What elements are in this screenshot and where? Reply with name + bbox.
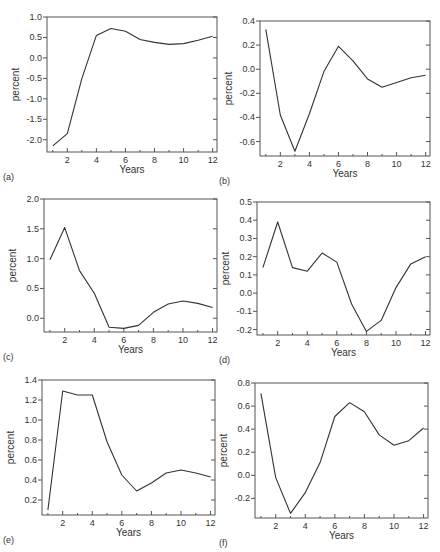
y-tick-label: 0.8 <box>237 378 250 388</box>
y-tick-label: 2.0 <box>26 194 39 204</box>
y-tick-label: -0.6 <box>239 137 255 147</box>
x-tick-label: 4 <box>90 518 95 528</box>
x-axis-label: Years <box>329 530 354 541</box>
y-tick-label: 0.1 <box>239 270 252 280</box>
plot-frame <box>257 202 430 335</box>
panel-label: (c) <box>3 352 14 362</box>
y-tick-label: 0.3 <box>239 233 252 243</box>
x-tick-label: 2 <box>273 521 278 531</box>
y-tick-label: 0.4 <box>237 424 250 434</box>
x-axis-label: Years <box>331 347 356 358</box>
y-tick-label: 0.2 <box>237 447 250 457</box>
x-tick-label: 10 <box>176 518 186 528</box>
x-tick-label: 10 <box>178 335 188 345</box>
x-tick-label: 8 <box>365 159 370 169</box>
x-tick-label: 8 <box>151 335 156 345</box>
y-axis-label: percent <box>7 249 18 283</box>
y-tick-label: 0.4 <box>24 475 37 485</box>
y-tick-label: 0.2 <box>239 252 252 262</box>
y-tick-label: 0.5 <box>239 197 252 207</box>
x-tick-label: 10 <box>389 521 399 531</box>
y-tick-label: 0.0 <box>26 313 39 323</box>
y-tick-label: 0.4 <box>239 215 252 225</box>
panel-label: (b) <box>219 176 230 186</box>
y-tick-label: -0.2 <box>239 88 255 98</box>
y-tick-label: -1.5 <box>26 114 42 124</box>
figure-six-panel-line-charts: 24681012-2.0-1.5-1.0-0.50.00.51.0Yearspe… <box>0 0 440 552</box>
y-tick-label: 0.4 <box>242 16 255 26</box>
chart-panel-e: 246810120.20.40.60.81.01.21.4Yearspercen… <box>3 375 216 545</box>
y-tick-label: 1.0 <box>26 254 39 264</box>
y-tick-label: 1.0 <box>24 415 37 425</box>
panel-label: (f) <box>219 538 228 548</box>
y-tick-label: 1.5 <box>26 224 39 234</box>
y-tick-label: 0.6 <box>24 455 37 465</box>
y-tick-label: -0.5 <box>26 73 42 83</box>
x-tick-label: 4 <box>94 155 99 165</box>
chart-panel-c: 246810120.00.51.01.52.0Yearspercent(c) <box>3 194 218 362</box>
y-tick-label: 0.6 <box>237 401 250 411</box>
y-axis-label: percent <box>5 431 16 465</box>
x-tick-label: 12 <box>208 335 218 345</box>
y-axis-label: percent <box>218 434 229 468</box>
x-tick-label: 12 <box>208 155 218 165</box>
x-tick-label: 2 <box>60 518 65 528</box>
data-series-line <box>50 228 213 329</box>
data-series-line <box>266 29 426 151</box>
y-tick-label: 1.4 <box>24 375 37 385</box>
y-tick-label: -1.0 <box>26 94 42 104</box>
chart-panel-d: 24681012-0.2-0.10.00.10.20.30.40.5Yearsp… <box>219 197 431 365</box>
x-tick-label: 12 <box>421 338 431 348</box>
y-tick-label: 0.0 <box>237 470 250 480</box>
data-series-line <box>261 393 424 513</box>
x-tick-label: 2 <box>278 159 283 169</box>
x-tick-label: 12 <box>419 521 429 531</box>
y-tick-label: 0.2 <box>242 40 255 50</box>
x-axis-label: Years <box>116 527 141 538</box>
y-tick-label: 0.5 <box>29 32 42 42</box>
x-tick-label: 4 <box>92 335 97 345</box>
x-tick-label: 10 <box>392 159 402 169</box>
panel-label: (e) <box>3 535 14 545</box>
panel-label: (d) <box>219 355 230 365</box>
y-tick-label: 0.0 <box>242 64 255 74</box>
y-tick-label: -0.4 <box>239 112 255 122</box>
x-tick-label: 8 <box>364 338 369 348</box>
plot-frame <box>255 383 428 518</box>
y-tick-label: 0.8 <box>24 435 37 445</box>
x-tick-label: 8 <box>362 521 367 531</box>
data-series-line <box>48 391 211 510</box>
plot-frame <box>42 380 215 515</box>
plot-frame <box>47 17 217 152</box>
y-tick-label: 0.0 <box>29 53 42 63</box>
y-tick-label: 1.2 <box>24 395 37 405</box>
data-series-line <box>53 29 213 146</box>
x-tick-label: 2 <box>62 335 67 345</box>
x-tick-label: 4 <box>305 338 310 348</box>
y-tick-label: 1.0 <box>29 12 42 22</box>
x-tick-label: 10 <box>391 338 401 348</box>
x-tick-label: 12 <box>206 518 216 528</box>
x-tick-label: 8 <box>152 155 157 165</box>
x-tick-label: 12 <box>421 159 431 169</box>
y-tick-label: -2.0 <box>26 135 42 145</box>
chart-panel-f: 24681012-0.20.00.20.40.60.8Yearspercent(… <box>218 378 429 548</box>
y-tick-label: -0.1 <box>236 306 252 316</box>
chart-panel-a: 24681012-2.0-1.5-1.0-0.50.00.51.0Yearspe… <box>3 12 218 182</box>
x-tick-label: 2 <box>65 155 70 165</box>
y-tick-label: -0.2 <box>234 493 250 503</box>
y-tick-label: -0.2 <box>236 325 252 335</box>
y-axis-label: percent <box>223 72 234 106</box>
y-axis-label: percent <box>220 252 231 286</box>
x-tick-label: 4 <box>307 159 312 169</box>
x-axis-label: Years <box>119 164 144 175</box>
x-axis-label: Years <box>332 168 357 179</box>
y-tick-label: 0.2 <box>24 495 37 505</box>
data-series-line <box>263 222 426 331</box>
x-tick-label: 8 <box>149 518 154 528</box>
y-tick-label: 0.5 <box>26 283 39 293</box>
chart-panel-b: 24681012-0.6-0.4-0.20.00.20.4Yearspercen… <box>219 16 431 186</box>
x-tick-label: 10 <box>179 155 189 165</box>
plot-frame <box>44 199 217 332</box>
y-tick-label: 0.0 <box>239 288 252 298</box>
